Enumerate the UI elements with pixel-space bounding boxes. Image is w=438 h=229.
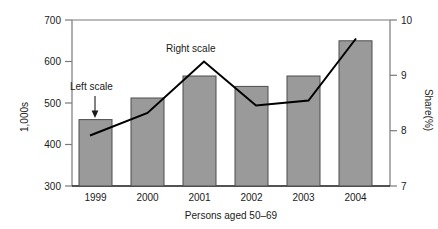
chart-svg: 700 600 500 400 300 10 9 8 7 bbox=[0, 0, 438, 229]
bar-2000 bbox=[131, 98, 164, 186]
right-tick-label-8: 8 bbox=[401, 125, 407, 136]
left-tick-label-300: 300 bbox=[44, 181, 61, 192]
x-axis-title: Persons aged 50–69 bbox=[185, 210, 278, 221]
x-tick-label-2002: 2002 bbox=[240, 192, 263, 203]
chart-container: 700 600 500 400 300 10 9 8 7 bbox=[0, 0, 438, 229]
annotation-right-scale-label: Right scale bbox=[166, 43, 216, 54]
left-tick-label-400: 400 bbox=[44, 139, 61, 150]
left-tick-label-600: 600 bbox=[44, 56, 61, 67]
x-tick-label-2004: 2004 bbox=[344, 192, 367, 203]
right-tick-label-10: 10 bbox=[401, 15, 413, 26]
annotation-right-scale: Right scale bbox=[166, 43, 216, 54]
x-tick-label-2003: 2003 bbox=[292, 192, 315, 203]
right-tick-label-9: 9 bbox=[401, 70, 407, 81]
y-axis-title-left: 1,000s bbox=[19, 102, 30, 132]
left-tick-label-700: 700 bbox=[44, 15, 61, 26]
x-tick-label-2001: 2001 bbox=[188, 192, 211, 203]
x-tick-label-1999: 1999 bbox=[84, 192, 107, 203]
x-tick-label-2000: 2000 bbox=[136, 192, 159, 203]
left-tick-label-500: 500 bbox=[44, 98, 61, 109]
y-axis-title-right: Share(%) bbox=[423, 89, 434, 131]
bar-2001 bbox=[183, 76, 216, 186]
annotation-left-scale-label: Left scale bbox=[70, 81, 113, 92]
bar-2004 bbox=[339, 41, 372, 186]
right-tick-label-7: 7 bbox=[401, 181, 407, 192]
